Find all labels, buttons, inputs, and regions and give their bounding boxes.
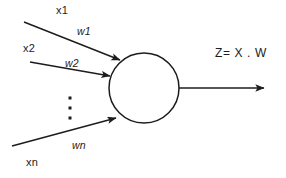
edge-xn-line (12, 118, 116, 146)
input-label-x1: x1 (56, 4, 68, 16)
neuron-diagram-canvas: x1 w1 x2 w2 wn xn Z= X . W (0, 0, 286, 178)
neuron-diagram-svg (0, 0, 286, 178)
ellipsis-dots-icon (69, 97, 72, 120)
input-label-x2: x2 (23, 42, 35, 54)
neuron-body-circle (109, 53, 179, 123)
weight-label-w2: w2 (65, 57, 79, 69)
weight-label-wn: wn (72, 139, 86, 151)
output-equation-label: Z= X . W (215, 47, 267, 59)
weight-label-w1: w1 (77, 25, 91, 37)
edge-x1-line (24, 22, 120, 60)
input-label-xn: xn (26, 156, 38, 168)
